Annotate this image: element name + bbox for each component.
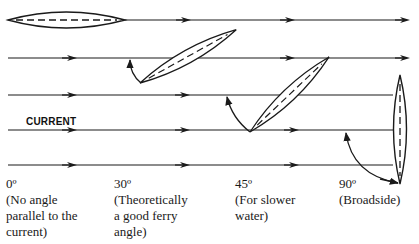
boat-0-degrees [8,12,125,28]
angle-degrees: 0º [6,176,77,192]
angle-label-45: 45º (For slower water) [235,176,295,224]
angle-label-0: 0º (No angle parallel to the current) [6,176,77,240]
angle-degrees: 90º [339,176,400,192]
boat-30-degrees [137,24,240,89]
angle-arc-45 [227,97,250,132]
angle-description: (Broadside) [339,192,400,208]
angle-description: (For slower water) [235,192,295,224]
boat-90-degrees [394,75,407,184]
angle-label-30: 30º (Theoretically a good ferry angle) [114,176,188,240]
current-label: CURRENT [26,116,76,127]
angle-degrees: 30º [114,176,188,192]
angle-label-90: 90º (Broadside) [339,176,400,208]
angle-degrees: 45º [235,176,295,192]
angle-description: (Theoretically a good ferry angle) [114,192,188,240]
angle-arc-30 [130,60,141,83]
angle-description: (No angle parallel to the current) [6,192,77,240]
